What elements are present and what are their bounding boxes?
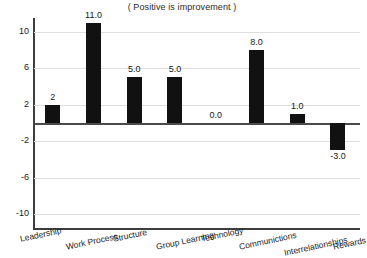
gridline	[34, 214, 360, 215]
bar	[86, 23, 101, 123]
bar	[167, 77, 182, 123]
y-tick-label: -2	[0, 135, 29, 145]
gridline	[34, 178, 360, 179]
plot-area	[34, 18, 360, 228]
bar-value-label: 11.0	[73, 10, 113, 20]
bar-value-label: 0.0	[196, 110, 236, 120]
bar-value-label: 5.0	[114, 64, 154, 74]
bar	[127, 77, 142, 123]
y-tick-label: 6	[0, 62, 29, 72]
bar-value-label: -3.0	[318, 151, 358, 161]
bar	[45, 105, 60, 123]
bar	[249, 50, 264, 123]
bar-value-label: 8.0	[236, 37, 276, 47]
x-axis-line	[33, 228, 360, 230]
bar-value-label: 5.0	[155, 64, 195, 74]
gridline	[34, 32, 360, 33]
gridline	[34, 68, 360, 69]
bar-value-label: 2	[33, 92, 73, 102]
chart-title: ( Positive is improvement )	[0, 2, 364, 12]
gridline	[34, 141, 360, 142]
y-tick-label: -10	[0, 208, 29, 218]
y-tick-label: 2	[0, 99, 29, 109]
zero-line	[34, 123, 360, 125]
bar-value-label: 1.0	[277, 101, 317, 111]
bar	[330, 123, 345, 150]
bar	[290, 114, 305, 123]
y-tick-label: -6	[0, 172, 29, 182]
y-tick-label: 10	[0, 26, 29, 36]
